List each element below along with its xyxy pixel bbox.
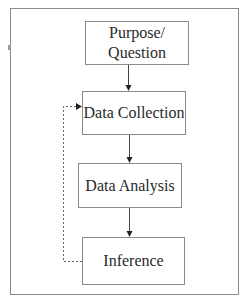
node-collection-label: Data Collection [84, 103, 185, 123]
node-data-collection: Data Collection [82, 91, 186, 135]
node-data-analysis: Data Analysis [78, 163, 182, 208]
node-purpose-label-line2: Question [108, 43, 166, 63]
node-purpose-question: Purpose/ Question [85, 21, 189, 65]
node-analysis-label: Data Analysis [85, 176, 174, 196]
frame-tick-mark [8, 45, 11, 50]
node-inference-label: Inference [103, 251, 163, 271]
node-inference: Inference [82, 237, 185, 285]
node-purpose-label-line1: Purpose/ [109, 23, 165, 43]
